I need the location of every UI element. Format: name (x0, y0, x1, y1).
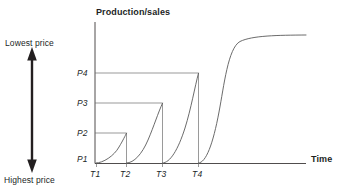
curve-segment-4 (199, 35, 307, 163)
lowest-price-label: Lowest price (5, 39, 54, 48)
x-tick-label-t4: T4 (192, 170, 202, 179)
curve-segment-3 (163, 73, 199, 163)
highest-price-label: Highest price (4, 176, 55, 185)
adoption-curves (96, 35, 306, 163)
y-tick-label-p4: P4 (77, 69, 88, 78)
price-scale-arrow (27, 47, 37, 173)
y-axis-title: Production/sales (96, 8, 170, 17)
chart-figure (0, 0, 339, 191)
curve-segment-2 (127, 103, 163, 163)
arrow-head-up-icon (27, 47, 37, 61)
x-axis-title: Time (311, 155, 332, 164)
arrow-head-down-icon (27, 160, 37, 174)
x-tick-label-t2: T2 (120, 170, 130, 179)
diagram-canvas: Production/sales Time P4 P3 P2 P1 T1 T2 … (0, 0, 339, 191)
curve-segment-1 (96, 133, 127, 163)
y-tick-label-p2: P2 (77, 129, 88, 138)
y-tick-label-p3: P3 (77, 99, 88, 108)
x-tick-label-t1: T1 (90, 170, 100, 179)
horizontal-guides (95, 73, 199, 133)
x-tick-label-t3: T3 (156, 170, 166, 179)
x-axis-ticks (97, 164, 199, 168)
y-tick-label-p1: P1 (77, 155, 88, 164)
